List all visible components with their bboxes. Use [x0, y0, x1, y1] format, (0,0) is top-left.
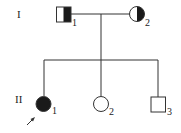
pedigree-chart: I II 1 2 1 2 3	[0, 0, 181, 133]
individual-I-2	[130, 7, 145, 22]
generation-label-1: I	[17, 8, 21, 20]
proband-arrow-icon	[27, 117, 35, 125]
individual-number: 2	[145, 17, 150, 28]
individual-number: 1	[52, 105, 57, 116]
female-circle-filled-icon	[36, 97, 51, 112]
generation-label-2: II	[15, 93, 23, 105]
individual-number: 2	[109, 106, 114, 117]
individual-number: 1	[72, 17, 77, 28]
pedigree-lines	[44, 14, 158, 97]
male-square-open-icon	[151, 97, 166, 112]
individual-number: 3	[167, 106, 172, 117]
female-circle-open-icon	[94, 97, 109, 112]
individual-I-1	[57, 7, 72, 22]
